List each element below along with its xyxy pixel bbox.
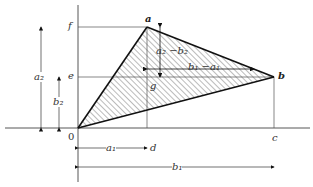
b1-minus-a1-label: b₁ −a₁ bbox=[188, 62, 220, 72]
point-d-label: d bbox=[150, 143, 156, 153]
point-f-label: f bbox=[68, 21, 72, 31]
point-a-label: a bbox=[145, 14, 151, 24]
b2-label: b₂ bbox=[53, 97, 63, 107]
a2-minus-b2-label: a₂ −b₂ bbox=[156, 46, 188, 56]
triangle-area-diagram: a b c d e f g 0 a₂ b₂ a₁ b₁ a₂ −b₂ b₁ −a… bbox=[0, 0, 313, 187]
point-e-label: e bbox=[68, 71, 74, 81]
diagram-canvas bbox=[0, 0, 313, 187]
a2-label: a₂ bbox=[34, 72, 44, 82]
triangle-region bbox=[78, 27, 274, 128]
a1-label: a₁ bbox=[106, 143, 116, 153]
point-g-label: g bbox=[150, 81, 156, 91]
origin-label: 0 bbox=[68, 132, 74, 142]
point-b-label: b bbox=[278, 71, 285, 81]
b1-label: b₁ bbox=[172, 162, 182, 172]
point-c-label: c bbox=[272, 133, 278, 143]
